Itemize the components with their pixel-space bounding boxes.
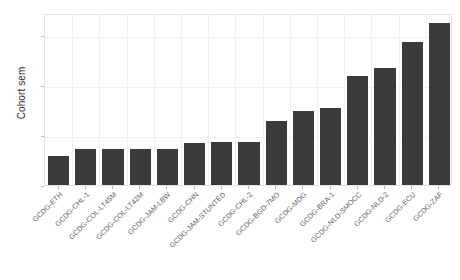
x-tick-mark bbox=[438, 186, 439, 189]
x-tick-mark bbox=[330, 186, 331, 189]
y-axis-title: Cohort sem bbox=[14, 0, 28, 186]
y-tick-mark bbox=[41, 36, 44, 37]
x-tick-mark bbox=[302, 186, 303, 189]
x-tick-mark bbox=[248, 186, 249, 189]
x-tick-mark bbox=[112, 186, 113, 189]
x-tick-label: GCDG-COL-LT45M bbox=[67, 190, 118, 241]
x-tick-mark bbox=[357, 186, 358, 189]
y-tick-mark bbox=[41, 136, 44, 137]
x-tick-mark bbox=[58, 186, 59, 189]
y-tick-mark bbox=[41, 86, 44, 87]
x-tick-mark bbox=[221, 186, 222, 189]
x-tick-mark bbox=[275, 186, 276, 189]
y-tick-mark bbox=[41, 186, 44, 187]
x-tick-mark bbox=[139, 186, 140, 189]
x-tick-mark bbox=[194, 186, 195, 189]
x-tick-mark bbox=[411, 186, 412, 189]
x-tick-label: GCDG-COL-LT42M bbox=[94, 190, 145, 241]
x-tick-mark bbox=[166, 186, 167, 189]
bar-chart: Cohort sem 0123 GCDG-ETHGCDG-CHL-1GCDG-C… bbox=[0, 0, 460, 280]
x-tick-mark bbox=[384, 186, 385, 189]
x-tick-mark bbox=[85, 186, 86, 189]
y-axis: 0123 bbox=[44, 14, 452, 186]
